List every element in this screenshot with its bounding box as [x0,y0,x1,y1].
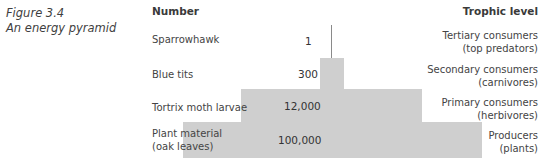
trophic-level-header: Trophic level [463,5,538,17]
organism-label-plant-line1: Plant material [152,127,222,140]
producers-bar [183,122,482,158]
secondary-consumers-bar [320,58,344,90]
organism-label-blue-tits: Blue tits [152,68,193,81]
number-tortrix: 12,000 [284,100,321,112]
number-sparrowhawk: 1 [305,35,312,47]
trophic-level-primary-name: Primary consumers [441,96,538,109]
organism-label-tortrix: Tortrix moth larvae [152,101,247,114]
figure-caption: Figure 3.4 An energy pyramid [6,6,116,36]
trophic-level-producers-detail: (plants) [488,142,538,155]
figure-title: An energy pyramid [6,21,116,36]
number-blue-tits: 300 [298,68,318,80]
trophic-level-tertiary-name: Tertiary consumers [443,29,538,42]
number-header: Number [152,5,199,17]
organism-label-plant-line2: (oak leaves) [152,140,222,153]
organism-label-plant: Plant material (oak leaves) [152,127,222,153]
trophic-level-tertiary-detail: (top predators) [443,42,538,55]
trophic-level-producers-name: Producers [488,129,538,142]
trophic-level-secondary-name: Secondary consumers [427,63,538,76]
trophic-level-tertiary: Tertiary consumers (top predators) [443,29,538,55]
trophic-level-secondary: Secondary consumers (carnivores) [427,63,538,89]
primary-consumers-bar [241,89,422,123]
figure-number: Figure 3.4 [6,6,116,21]
trophic-level-primary-detail: (herbivores) [441,109,538,122]
organism-label-sparrowhawk: Sparrowhawk [152,33,219,46]
trophic-level-secondary-detail: (carnivores) [427,76,538,89]
number-plant: 100,000 [278,134,321,146]
tertiary-consumers-line [331,25,332,58]
trophic-level-producers: Producers (plants) [488,129,538,155]
trophic-level-primary: Primary consumers (herbivores) [441,96,538,122]
